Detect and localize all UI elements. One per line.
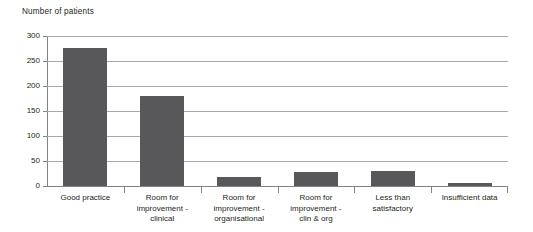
bar xyxy=(140,96,184,186)
x-tick-label: Good practice xyxy=(47,193,124,204)
y-tick-label: 100 xyxy=(14,132,40,140)
y-tick-label: 250 xyxy=(14,57,40,65)
x-tick-label: Less thansatisfactory xyxy=(354,193,431,214)
bar xyxy=(371,171,415,186)
x-tick-label: Room forimprovement -clin & org xyxy=(278,193,355,225)
y-tick-label: 150 xyxy=(14,107,40,115)
x-tick-label: Room forimprovement -clinical xyxy=(124,193,201,225)
bars-group xyxy=(47,36,508,186)
x-axis-categories: Good practiceRoom forimprovement -clinic… xyxy=(47,186,508,232)
y-tick-label: 0 xyxy=(14,182,40,190)
x-axis-separator xyxy=(124,186,125,193)
y-tick-label: 50 xyxy=(14,157,40,165)
x-axis-separator xyxy=(354,186,355,193)
x-axis-separator xyxy=(431,186,432,193)
x-tick-label: Insufficient data xyxy=(431,193,508,204)
x-axis-separator xyxy=(278,186,279,193)
x-tick-label: Room forimprovement -organisational xyxy=(201,193,278,225)
chart-title: Number of patients xyxy=(22,7,94,16)
y-tick-label: 300 xyxy=(14,32,40,40)
x-axis-separator xyxy=(201,186,202,193)
bar xyxy=(63,48,107,187)
bar xyxy=(294,172,338,186)
bar-chart: Number of patients 050100150200250300 Go… xyxy=(0,0,533,232)
x-axis-separator xyxy=(507,186,508,193)
bar xyxy=(217,177,261,186)
y-tick-label: 200 xyxy=(14,82,40,90)
